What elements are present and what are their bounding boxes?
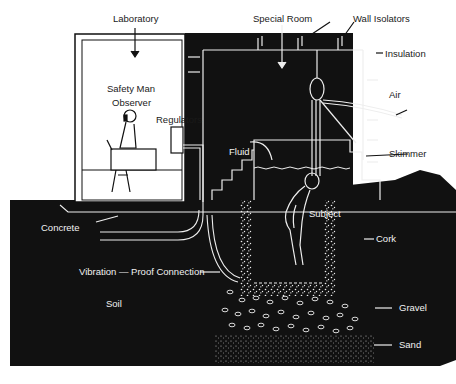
label-sand: Sand bbox=[399, 339, 421, 350]
label-insulation: Insulation bbox=[385, 48, 426, 59]
label-regulators: Regulators bbox=[156, 114, 202, 125]
label-skimmer: Skimmer bbox=[389, 148, 426, 159]
label-soil: Soil bbox=[106, 298, 122, 309]
label-concrete: Concrete bbox=[41, 222, 80, 233]
label-subject: Subject bbox=[309, 208, 341, 219]
immersion-tank-diagram: Laboratory Special Room Wall Isolators I… bbox=[0, 0, 456, 384]
label-fluid: Fluid bbox=[229, 146, 250, 157]
label-laboratory: Laboratory bbox=[113, 13, 158, 24]
label-observer: Observer bbox=[112, 97, 151, 108]
regulators-box bbox=[171, 127, 183, 153]
label-gravel: Gravel bbox=[399, 302, 427, 313]
label-special-room: Special Room bbox=[253, 13, 312, 24]
label-cork: Cork bbox=[376, 233, 396, 244]
label-wall-isolators: Wall Isolators bbox=[353, 13, 410, 24]
label-safety-man: Safety Man bbox=[107, 83, 155, 94]
sand-layer bbox=[215, 335, 375, 363]
label-air: Air bbox=[389, 89, 401, 100]
label-vibration-proof-connection: Vibration — Proof Connection bbox=[79, 266, 205, 277]
